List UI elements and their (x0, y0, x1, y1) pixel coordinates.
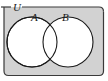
set-label-b: B (62, 11, 69, 23)
universe-label: U (13, 1, 22, 13)
venn-diagram-figure: U A B (0, 0, 108, 81)
set-label-a: A (30, 11, 38, 23)
venn-diagram-canvas: U A B (0, 0, 108, 81)
